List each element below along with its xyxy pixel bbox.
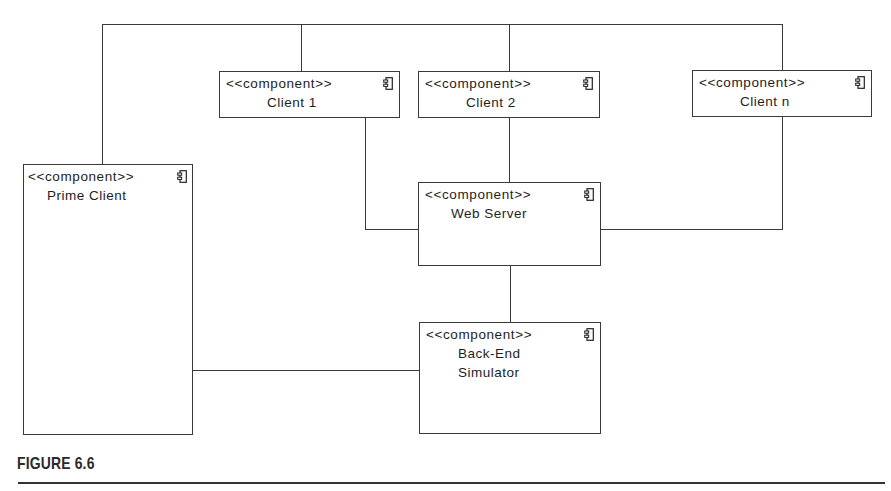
component-client-1[interactable]: <<component>> Client 1 [219,71,400,118]
prime-to-backend-line [192,370,420,371]
stereotype-label: <<component>> [226,76,332,91]
clientn-to-webserver-line [600,229,783,230]
bus-to-prime-client-line [102,24,103,165]
stereotype-label: <<component>> [425,76,531,91]
clientn-down-line [782,116,783,230]
component-client-2[interactable]: <<component>> Client 2 [418,71,600,118]
component-back-end-simulator[interactable]: <<component>> Back-End Simulator [419,322,601,434]
client1-down-line [365,117,366,230]
component-icon [584,188,594,201]
bus-to-client1-line [301,24,302,71]
component-name: Client 1 [267,93,317,112]
figure-caption: FIGURE 6.6 [17,454,95,474]
component-name: Web Server [451,204,527,223]
stereotype-label: <<component>> [699,75,805,90]
stereotype-label: <<component>> [425,187,531,202]
component-web-server[interactable]: <<component>> Web Server [418,182,601,266]
component-icon [383,77,393,90]
component-icon [855,76,865,89]
stereotype-label: <<component>> [28,169,134,184]
bus-to-clientn-line [782,24,783,71]
top-bus-line [102,24,783,25]
component-icon [584,328,594,341]
component-diagram: <<component>> Client 1 <<component>> Cli… [0,0,891,491]
component-prime-client[interactable]: <<component>> Prime Client [23,164,193,435]
component-icon [177,170,187,183]
bus-to-client2-line [509,24,510,71]
component-icon [583,77,593,90]
component-name: Client n [740,92,790,111]
component-name: Client 2 [466,93,516,112]
webserver-to-backend-line [510,265,511,323]
stereotype-label: <<component>> [426,327,532,342]
component-client-n[interactable]: <<component>> Client n [692,70,872,117]
caption-rule [18,482,885,484]
client2-to-webserver-line [509,117,510,183]
component-name: Back-End Simulator [458,344,521,382]
component-name: Prime Client [47,186,127,205]
client1-to-webserver-line [365,229,419,230]
